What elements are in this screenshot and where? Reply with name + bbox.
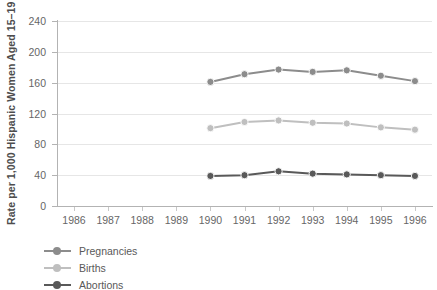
series-births bbox=[207, 117, 419, 133]
data-point bbox=[241, 118, 248, 125]
legend-item-abortions[interactable]: Abortions bbox=[44, 277, 137, 290]
data-point bbox=[275, 117, 282, 124]
data-point bbox=[377, 124, 384, 131]
data-point bbox=[241, 71, 248, 78]
data-point bbox=[207, 125, 214, 132]
data-point bbox=[309, 170, 316, 177]
data-point bbox=[275, 168, 282, 175]
data-point bbox=[309, 119, 316, 126]
legend-item-pregnancies[interactable]: Pregnancies bbox=[44, 243, 137, 258]
data-point bbox=[207, 172, 214, 179]
data-point bbox=[343, 171, 350, 178]
data-point bbox=[343, 120, 350, 127]
data-point bbox=[377, 72, 384, 79]
data-point bbox=[309, 68, 316, 75]
legend-swatch-icon bbox=[44, 279, 71, 290]
data-point bbox=[377, 172, 384, 179]
legend-item-births[interactable]: Births bbox=[44, 260, 137, 275]
legend-label: Births bbox=[79, 262, 106, 274]
series-pregnancies bbox=[207, 66, 419, 86]
legend-label: Pregnancies bbox=[79, 245, 137, 257]
chart-legend: PregnanciesBirthsAbortions bbox=[44, 243, 137, 290]
data-point bbox=[411, 172, 418, 179]
data-point bbox=[207, 78, 214, 85]
data-point bbox=[343, 67, 350, 74]
legend-swatch-icon bbox=[44, 245, 71, 256]
data-point bbox=[275, 66, 282, 73]
data-point bbox=[241, 172, 248, 179]
legend-swatch-icon bbox=[44, 262, 71, 273]
series-abortions bbox=[207, 168, 419, 180]
legend-label: Abortions bbox=[79, 279, 123, 290]
chart-figure: Rate per 1,000 Hispanic Women Aged 15–19… bbox=[0, 0, 437, 290]
data-point bbox=[411, 126, 418, 133]
data-point bbox=[411, 78, 418, 85]
